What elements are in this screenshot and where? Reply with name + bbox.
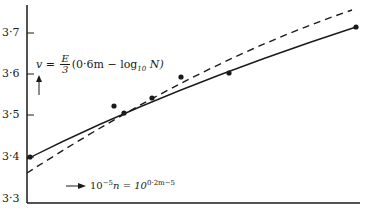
formula-rest: (0·6m − log: [72, 58, 138, 71]
tick-label-3-7: 3·7: [2, 27, 20, 38]
chart-canvas: [0, 0, 367, 210]
dashed-curve: [27, 10, 352, 173]
up-arrow-icon: [36, 75, 42, 95]
formula-v: v =: [36, 58, 55, 71]
y-ticks: [27, 33, 34, 157]
tick-label-3-4: 3·4: [2, 151, 20, 162]
solid-curve: [27, 27, 356, 159]
data-points: [27, 24, 358, 159]
tick-label-3-6: 3·6: [2, 68, 20, 79]
formula-fraction: E 3: [60, 54, 69, 75]
formula-annotation: v = E 3 (0·6m − log10 N): [36, 54, 164, 75]
tick-label-3-3: 3·3: [2, 193, 20, 204]
tick-label-3-5: 3·5: [2, 109, 20, 120]
right-arrow-icon: [66, 183, 86, 189]
dashed-curve-annotation: 10−5n = 100·2m−5: [90, 179, 175, 191]
